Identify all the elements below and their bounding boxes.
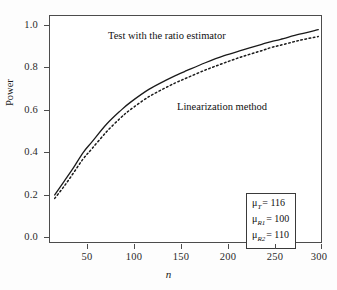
y-tick-label-0.6: 0.6 (12, 105, 38, 116)
x-tick-label-100: 100 (114, 252, 154, 263)
x-tick-label-50: 50 (67, 252, 107, 263)
x-tick-mark-250 (275, 244, 276, 249)
mu-subscript-R1: R1 (257, 219, 265, 227)
figure-root: 1.0 0.8 0.6 0.4 0.2 0.0 Power Test with … (0, 0, 337, 290)
y-tick-label-0.4: 0.4 (12, 147, 38, 158)
mu-subscript-R2: R2 (257, 235, 265, 243)
annotation-solid-curve: Test with the ratio estimator (108, 30, 226, 41)
y-axis-title: Power (4, 79, 15, 106)
mu-value-R1: = 100 (265, 213, 289, 224)
y-tick-label-0.2: 0.2 (12, 190, 38, 201)
y-tick-label-0.0: 0.0 (12, 232, 38, 243)
x-tick-mark-300 (321, 244, 322, 249)
x-axis-title: n (0, 268, 337, 280)
param-row-mu-R2: μR2= 110 (252, 229, 289, 245)
x-tick-label-200: 200 (208, 252, 248, 263)
annotation-dashed-curve: Linearization method (177, 101, 267, 112)
x-tick-label-150: 150 (161, 252, 201, 263)
param-row-mu-T: μT= 116 (252, 197, 289, 213)
param-row-mu-R1: μR1= 100 (252, 213, 289, 229)
parameter-legend-box: μT= 116 μR1= 100 μR2= 110 (246, 193, 296, 249)
mu-value-R2: = 110 (265, 229, 289, 240)
y-tick-label-1.0: 1.0 (12, 20, 38, 31)
plot-area: Test with the ratio estimator Linearizat… (49, 15, 322, 243)
curve-dotted-linearization (55, 37, 319, 199)
x-tick-label-300: 300 (299, 252, 337, 263)
y-tick-label-0.8: 0.8 (12, 62, 38, 73)
mu-value-T: = 116 (261, 197, 285, 208)
x-tick-mark-50 (87, 244, 88, 249)
x-tick-mark-100 (134, 244, 135, 249)
x-tick-label-250: 250 (255, 252, 295, 263)
x-tick-mark-200 (228, 244, 229, 249)
curve-solid-ratio-estimator (55, 30, 319, 195)
x-tick-mark-150 (181, 244, 182, 249)
